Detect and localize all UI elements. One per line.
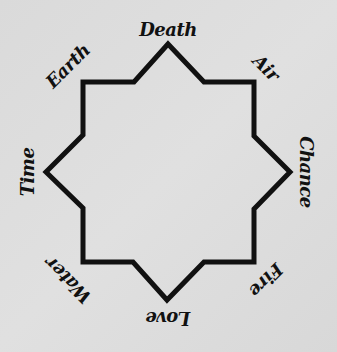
- star-diagram: DeathAirChanceFireLoveWaterTimeEarth: [0, 0, 337, 352]
- label-chance: Chance: [297, 136, 315, 208]
- star-outline: [0, 0, 337, 352]
- label-time: Time: [19, 148, 37, 197]
- label-love: Love: [146, 309, 191, 327]
- label-death: Death: [139, 21, 197, 39]
